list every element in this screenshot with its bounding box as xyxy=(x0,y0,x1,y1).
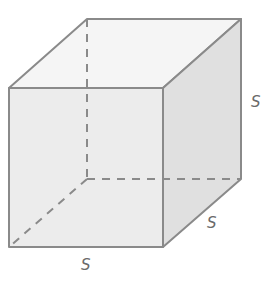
height-label: S xyxy=(251,93,261,111)
cube-diagram: S S S xyxy=(0,0,270,283)
depth-label: S xyxy=(207,214,217,232)
width-label: S xyxy=(81,256,91,274)
